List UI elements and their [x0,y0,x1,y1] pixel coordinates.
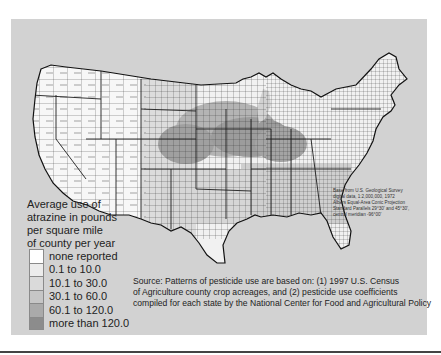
legend-item: 0.1 to 10.0 [29,263,129,277]
horizontal-rule [0,351,441,353]
legend-title-line: atrazine in pounds [27,211,147,224]
legend-label: 0.1 to 10.0 [49,263,101,275]
legend-item: 60.1 to 120.0 [29,303,129,317]
legend-title: Average use of atrazine in pounds per sq… [27,198,147,250]
source-line: Source: Patterns of pesticide use are ba… [133,276,431,287]
legend-swatch [29,249,44,263]
base-map-note: Base from U.S. Geological Survey digital… [333,188,428,218]
legend-label: 30.1 to 60.0 [49,290,107,302]
legend-item: none reported [29,249,129,263]
legend-item: 10.1 to 30.0 [29,276,129,290]
base-note-line: central meridian -96°00' [333,212,428,218]
legend-swatch [29,303,44,317]
legend-title-line: Average use of [27,198,147,211]
legend-label: more than 120.0 [49,317,129,329]
legend-swatch [29,317,44,331]
legend-label: 60.1 to 120.0 [49,304,113,316]
source-note: Source: Patterns of pesticide use are ba… [133,276,431,309]
legend: none reported 0.1 to 10.0 10.1 to 30.0 3… [29,249,129,330]
legend-swatch [29,290,44,304]
legend-label: 10.1 to 30.0 [49,277,107,289]
source-line: of Agriculture county crop acreages, and… [133,287,431,298]
legend-item: 30.1 to 60.0 [29,290,129,304]
legend-swatch [29,263,44,277]
legend-label: none reported [49,250,118,262]
legend-swatch [29,276,44,290]
legend-item: more than 120.0 [29,317,129,331]
legend-title-line: per square mile [27,224,147,237]
source-line: compiled for each state by the National … [133,298,431,309]
